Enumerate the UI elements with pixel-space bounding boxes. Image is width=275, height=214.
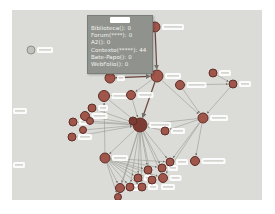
node-label-text bbox=[151, 124, 169, 125]
node-label-text bbox=[172, 177, 180, 178]
node-label-text bbox=[80, 136, 90, 137]
graph-edge bbox=[155, 32, 156, 68]
graph-node[interactable] bbox=[100, 153, 110, 163]
tooltip-stat-line: Forum(****): 0 bbox=[91, 32, 150, 39]
graph-node[interactable] bbox=[88, 104, 96, 112]
tooltip-selected-title bbox=[110, 17, 130, 23]
graph-node[interactable] bbox=[159, 174, 168, 183]
graph-node[interactable] bbox=[176, 81, 185, 90]
graph-node[interactable] bbox=[115, 194, 122, 201]
graph-edge bbox=[110, 130, 135, 153]
node-label-text bbox=[241, 83, 249, 84]
graph-node[interactable] bbox=[126, 183, 134, 191]
graph-node[interactable] bbox=[129, 117, 137, 125]
tooltip-stat-line: WebFolio(): 0 bbox=[91, 61, 150, 68]
graph-node[interactable] bbox=[27, 46, 35, 54]
node-label-text bbox=[94, 115, 106, 116]
graph-edge bbox=[196, 123, 202, 155]
node-label-text bbox=[100, 107, 106, 108]
graph-edge bbox=[143, 82, 155, 117]
graph-edge bbox=[173, 122, 199, 157]
graph-node[interactable] bbox=[69, 118, 77, 126]
graph-node[interactable] bbox=[191, 157, 200, 166]
node-label-text bbox=[140, 94, 152, 95]
node-tooltip: Biblioteca(): 0Forum(****): 0A2(): 0Cont… bbox=[87, 15, 153, 74]
graph-node[interactable] bbox=[105, 73, 115, 83]
graph-edge bbox=[109, 100, 134, 120]
graph-edge bbox=[136, 80, 152, 92]
graph-node[interactable] bbox=[144, 166, 152, 174]
graph-node[interactable] bbox=[80, 127, 87, 134]
node-label-text bbox=[150, 186, 156, 187]
node-label-text bbox=[114, 157, 126, 158]
graph-edge bbox=[217, 75, 228, 81]
graph-node[interactable] bbox=[166, 158, 174, 166]
graph-node[interactable] bbox=[138, 183, 146, 191]
graph-node[interactable] bbox=[161, 127, 169, 135]
node-label-text bbox=[114, 95, 128, 96]
node-label-text bbox=[170, 167, 176, 168]
graph-edge bbox=[140, 132, 142, 181]
graph-node[interactable] bbox=[68, 133, 76, 141]
graph-edge bbox=[132, 100, 137, 117]
graph-edge bbox=[183, 89, 199, 113]
tooltip-stats: Biblioteca(): 0Forum(****): 0A2(): 0Cont… bbox=[91, 25, 150, 68]
node-label-text bbox=[119, 77, 123, 78]
graph-node[interactable] bbox=[99, 91, 110, 102]
graph-node[interactable] bbox=[158, 164, 166, 172]
tooltip-stat-line: Bate-Papo(): 0 bbox=[91, 54, 150, 61]
graph-node[interactable] bbox=[127, 91, 136, 100]
node-label-text bbox=[173, 130, 183, 131]
app-window: Biblioteca(): 0Forum(****): 0A2(): 0Cont… bbox=[0, 0, 275, 214]
graph-node[interactable] bbox=[134, 174, 142, 182]
graph-node[interactable] bbox=[148, 176, 156, 184]
node-label-text bbox=[178, 161, 186, 162]
node-label-text bbox=[164, 26, 182, 27]
node-label-text bbox=[163, 186, 173, 187]
graph-node[interactable] bbox=[87, 118, 94, 125]
node-label-text bbox=[15, 110, 25, 111]
tooltip-stat-line: Biblioteca(): 0 bbox=[91, 25, 150, 32]
graph-node[interactable] bbox=[198, 113, 208, 123]
node-label-text bbox=[15, 164, 23, 165]
graph-node[interactable] bbox=[209, 69, 217, 77]
node-label-text bbox=[167, 75, 179, 76]
node-label-text bbox=[189, 84, 205, 85]
node-label-text bbox=[221, 72, 229, 73]
node-label-text bbox=[39, 49, 51, 50]
graph-canvas[interactable]: Biblioteca(): 0Forum(****): 0A2(): 0Cont… bbox=[12, 10, 262, 200]
node-label-text bbox=[212, 117, 226, 118]
graph-node[interactable] bbox=[229, 80, 237, 88]
node-label-text bbox=[204, 160, 224, 161]
tooltip-stat-line: Contexto(*****): 44 bbox=[91, 47, 150, 54]
graph-node[interactable] bbox=[116, 184, 125, 193]
graph-edge bbox=[138, 132, 140, 172]
graph-edge bbox=[207, 87, 230, 113]
tooltip-stat-line: A2(): 0 bbox=[91, 39, 150, 46]
